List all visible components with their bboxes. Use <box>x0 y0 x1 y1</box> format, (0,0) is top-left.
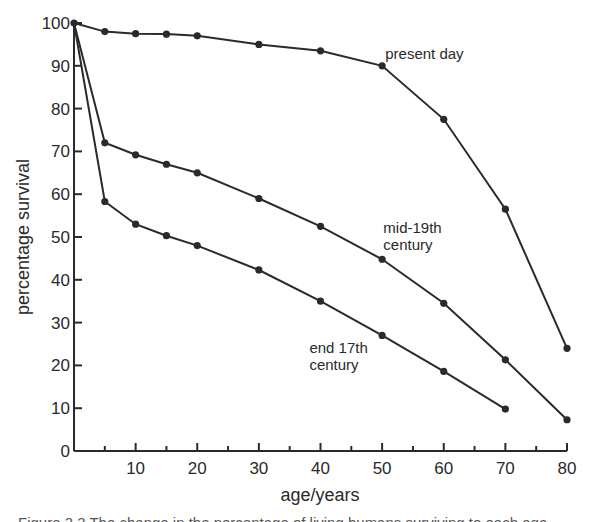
y-tick-label: 30 <box>51 314 70 333</box>
data-point <box>194 242 201 249</box>
data-point <box>440 116 447 123</box>
series-label: present day <box>385 45 464 62</box>
series-label: mid-19thcentury <box>383 219 441 253</box>
data-point <box>317 47 324 54</box>
series-line <box>74 23 505 409</box>
x-tick-label: 60 <box>434 459 453 478</box>
x-axis-title: age/years <box>280 485 359 505</box>
x-tick-label: 30 <box>249 459 268 478</box>
data-point <box>317 298 324 305</box>
data-point <box>101 139 108 146</box>
data-point <box>255 266 262 273</box>
data-point <box>379 256 386 263</box>
y-tick-label: 50 <box>51 228 70 247</box>
data-point <box>502 405 509 412</box>
x-tick-label: 50 <box>373 459 392 478</box>
data-point <box>194 169 201 176</box>
x-tick-label: 10 <box>126 459 145 478</box>
y-axis-title: percentage survival <box>13 159 33 315</box>
y-tick-label: 20 <box>51 356 70 375</box>
data-point <box>317 223 324 230</box>
axes <box>74 21 567 451</box>
y-tick-label: 70 <box>51 142 70 161</box>
data-point <box>563 345 570 352</box>
data-point <box>563 416 570 423</box>
data-point <box>502 356 509 363</box>
y-tick-label: 60 <box>51 185 70 204</box>
x-tick-label: 70 <box>496 459 515 478</box>
x-tick-label: 40 <box>311 459 330 478</box>
y-axis-ticks: 0102030405060708090100 <box>42 14 82 461</box>
data-point <box>255 41 262 48</box>
data-point <box>163 31 170 38</box>
y-tick-label: 40 <box>51 271 70 290</box>
data-point <box>194 32 201 39</box>
series-label: end 17thcentury <box>309 339 367 373</box>
x-tick-label: 80 <box>558 459 577 478</box>
data-point <box>379 332 386 339</box>
data-point <box>132 30 139 37</box>
x-tick-label: 20 <box>188 459 207 478</box>
y-tick-label: 80 <box>51 100 70 119</box>
y-tick-label: 0 <box>61 442 70 461</box>
y-tick-label: 10 <box>51 399 70 418</box>
data-point <box>101 28 108 35</box>
survival-chart: 0102030405060708090100 1020304050607080 … <box>0 0 589 522</box>
data-point <box>440 368 447 375</box>
data-point <box>163 232 170 239</box>
data-point <box>163 161 170 168</box>
data-point <box>255 195 262 202</box>
data-point-origin <box>70 19 77 26</box>
data-point <box>132 151 139 158</box>
data-point <box>379 62 386 69</box>
series-end-17th-century <box>74 23 509 413</box>
data-point <box>132 221 139 228</box>
figure-caption: Figure 3.3 The change in the percentage … <box>18 512 578 522</box>
y-tick-label: 90 <box>51 57 70 76</box>
x-axis-ticks: 1020304050607080 <box>105 443 577 478</box>
data-point <box>101 198 108 205</box>
data-point <box>440 300 447 307</box>
y-tick-label: 100 <box>42 14 70 33</box>
series-annotations: present daymid-19thcenturyend 17thcentur… <box>309 45 464 372</box>
data-point <box>502 206 509 213</box>
